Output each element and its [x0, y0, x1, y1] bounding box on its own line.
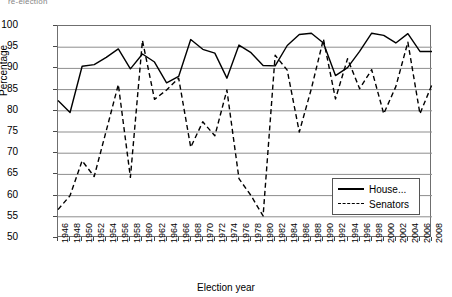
- x-tick-mark: [286, 237, 287, 241]
- x-tick-mark: [310, 237, 311, 241]
- x-tick-mark: [81, 237, 82, 241]
- x-axis-label: Election year: [0, 282, 452, 293]
- y-tick-mark: [53, 25, 57, 26]
- y-tick-mark: [53, 89, 57, 90]
- x-tick-mark: [298, 237, 299, 241]
- y-tick-label: 55: [0, 211, 18, 221]
- x-tick-mark: [238, 237, 239, 241]
- y-tick-label: 100: [0, 20, 18, 30]
- x-tick-mark: [334, 237, 335, 241]
- y-tick-label: 75: [0, 126, 18, 136]
- x-tick-mark: [166, 237, 167, 241]
- x-tick-mark: [154, 237, 155, 241]
- x-tick-mark: [262, 237, 263, 241]
- caption-fragment: re-election: [8, 0, 48, 6]
- x-tick-mark: [250, 237, 251, 241]
- x-tick-mark: [202, 237, 203, 241]
- legend-swatch-solid-icon: [338, 185, 364, 193]
- y-tick-mark: [53, 173, 57, 174]
- x-tick-mark: [129, 237, 130, 241]
- x-tick-mark: [214, 237, 215, 241]
- x-tick-mark: [226, 237, 227, 241]
- x-tick-mark: [419, 237, 420, 241]
- y-tick-label: 65: [0, 168, 18, 178]
- x-tick-mark: [431, 237, 432, 241]
- legend-swatch-dashed-icon: [338, 200, 364, 208]
- x-tick-mark: [359, 237, 360, 241]
- series-line-house: [58, 33, 432, 112]
- x-tick-mark: [395, 237, 396, 241]
- y-axis-label: Percentage: [0, 45, 9, 96]
- y-tick-label: 50: [0, 232, 18, 242]
- y-tick-mark: [53, 110, 57, 111]
- figure-container: re-election 10095908580757065605550 Perc…: [0, 0, 452, 297]
- x-tick-mark: [141, 237, 142, 241]
- x-tick-label: 2008: [435, 223, 444, 243]
- y-tick-mark: [53, 152, 57, 153]
- y-tick-label: 60: [0, 190, 18, 200]
- x-tick-mark: [190, 237, 191, 241]
- y-tick-label: 70: [0, 147, 18, 157]
- x-tick-mark: [117, 237, 118, 241]
- legend-label-senators: Senators: [369, 199, 409, 210]
- y-tick-mark: [53, 216, 57, 217]
- y-tick-mark: [53, 67, 57, 68]
- legend-entry-senators: Senators: [338, 197, 409, 211]
- x-tick-mark: [178, 237, 179, 241]
- x-tick-mark: [69, 237, 70, 241]
- x-tick-mark: [274, 237, 275, 241]
- x-tick-mark: [57, 237, 58, 241]
- y-tick-mark: [53, 131, 57, 132]
- x-tick-mark: [93, 237, 94, 241]
- x-tick-mark: [347, 237, 348, 241]
- x-tick-mark: [383, 237, 384, 241]
- x-tick-mark: [371, 237, 372, 241]
- y-tick-mark: [53, 195, 57, 196]
- x-tick-mark: [105, 237, 106, 241]
- legend: House... Senators: [332, 178, 420, 215]
- y-tick-mark: [53, 46, 57, 47]
- x-tick-mark: [407, 237, 408, 241]
- legend-entry-house: House...: [338, 182, 406, 196]
- y-tick-label: 80: [0, 105, 18, 115]
- x-tick-mark: [322, 237, 323, 241]
- legend-label-house: House...: [369, 184, 406, 195]
